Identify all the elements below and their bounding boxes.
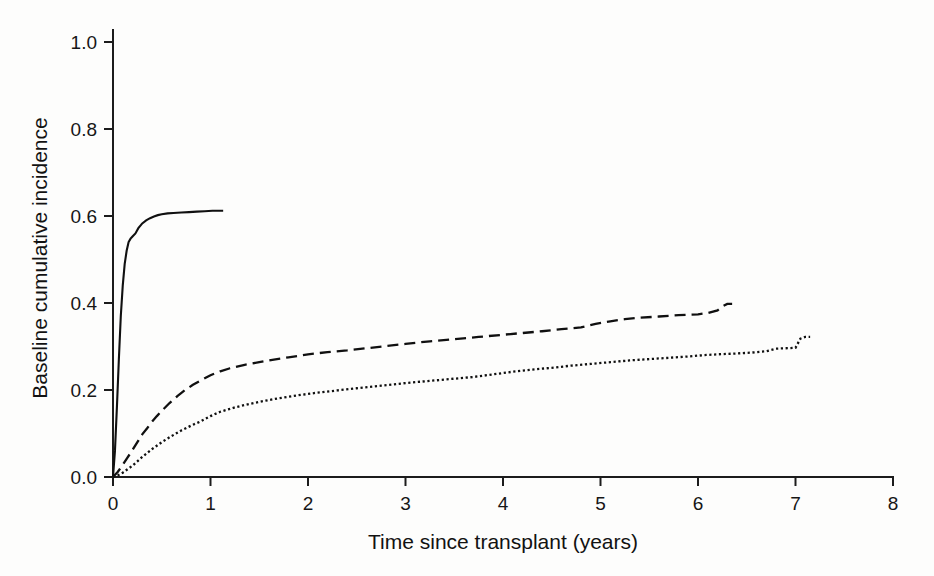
cumulative-incidence-chart: 0.00.20.40.60.81.0 012345678 Time since … [0, 0, 934, 576]
y-tick-label-0.4: 0.4 [71, 293, 98, 314]
x-axis-title: Time since transplant (years) [368, 530, 638, 553]
x-tick-label-0: 0 [108, 493, 119, 514]
y-tick-label-1.0: 1.0 [71, 32, 97, 53]
x-tick-label-2: 2 [303, 493, 314, 514]
x-tick-label-7: 7 [790, 493, 801, 514]
x-tick-label-4: 4 [498, 493, 509, 514]
x-axis-tick-labels: 012345678 [108, 493, 899, 514]
x-axis-group: 012345678 [108, 477, 899, 514]
x-axis-ticks [113, 477, 893, 486]
y-axis-title: Baseline cumulative incidence [28, 117, 51, 398]
y-axis-group: 0.00.20.40.60.81.0 [71, 30, 113, 488]
series-line-dotted-curve [113, 337, 810, 477]
x-tick-label-3: 3 [400, 493, 411, 514]
y-tick-label-0.0: 0.0 [71, 467, 97, 488]
y-axis-tick-labels: 0.00.20.40.60.81.0 [71, 32, 98, 488]
figure-container: 0.00.20.40.60.81.0 012345678 Time since … [0, 0, 934, 576]
y-axis-ticks [104, 42, 113, 477]
x-tick-label-1: 1 [205, 493, 216, 514]
x-tick-label-8: 8 [888, 493, 899, 514]
y-tick-label-0.6: 0.6 [71, 206, 97, 227]
data-curves [113, 211, 810, 477]
y-tick-label-0.8: 0.8 [71, 119, 97, 140]
series-line-dashed-curve [113, 304, 732, 477]
y-tick-label-0.2: 0.2 [71, 380, 97, 401]
x-tick-label-6: 6 [693, 493, 704, 514]
x-tick-label-5: 5 [595, 493, 606, 514]
